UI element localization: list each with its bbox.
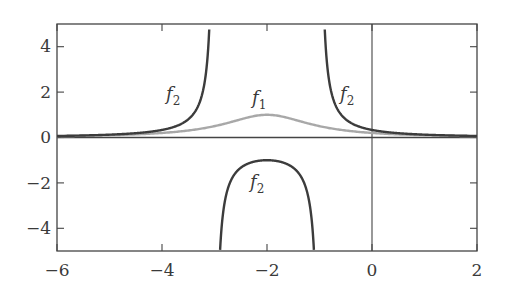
y-tick-label: 0 (40, 127, 51, 147)
y-tick-label: 4 (40, 36, 51, 56)
f2-curve-left-branch (57, 30, 209, 136)
x-tick-label: −4 (149, 260, 174, 280)
y-tick-label: −2 (26, 173, 51, 193)
x-tick-label: 0 (367, 260, 378, 280)
f1-curve (57, 115, 477, 136)
function-plot: −6 −4 −2 0 2 −4 −2 0 2 4 f2 f1 f2 f2 (0, 0, 508, 298)
f2-label-left: f2 (164, 83, 180, 108)
f2-curve-middle-branch (220, 160, 314, 250)
x-tick-label: 2 (472, 260, 483, 280)
f2-label-bottom: f2 (248, 171, 264, 196)
x-tick-label: −2 (254, 260, 279, 280)
x-tick-labels: −6 −4 −2 0 2 (44, 260, 482, 280)
f2-label-right: f2 (338, 83, 354, 108)
x-tick-label: −6 (44, 260, 69, 280)
y-tick-label: 2 (40, 82, 51, 102)
f2-curve-right-branch (325, 30, 477, 136)
y-tick-label: −4 (26, 218, 51, 238)
y-tick-labels: −4 −2 0 2 4 (26, 36, 51, 238)
f1-label: f1 (250, 87, 266, 112)
